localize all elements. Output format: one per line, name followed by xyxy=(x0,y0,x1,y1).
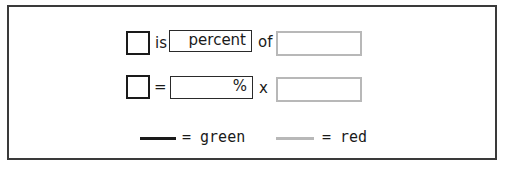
of-label: of xyxy=(258,32,272,52)
result-box-row2[interactable] xyxy=(126,75,150,99)
times-label: x xyxy=(259,78,268,98)
legend-green-label: = green xyxy=(182,127,245,147)
percent-box-row2[interactable]: % xyxy=(170,76,253,99)
percent-box-row1[interactable]: percent xyxy=(169,30,252,52)
whole-box-row2[interactable] xyxy=(276,77,362,102)
legend-red-label: = red xyxy=(322,127,367,147)
legend-gray-line xyxy=(276,137,314,140)
legend-black-line xyxy=(140,137,176,140)
equals-label: = xyxy=(154,77,167,97)
result-box-row1[interactable] xyxy=(126,31,150,55)
is-label: is xyxy=(155,33,167,53)
whole-box-row1[interactable] xyxy=(276,31,362,56)
